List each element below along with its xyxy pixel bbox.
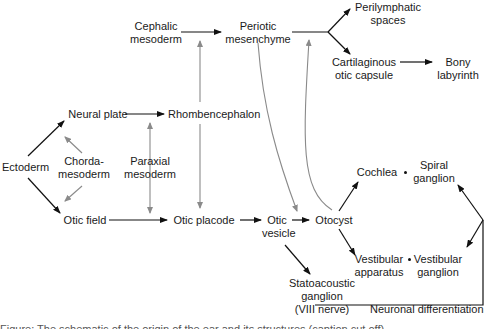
node-cartilaginous-otic-capsule: Cartilaginous otic capsule xyxy=(328,56,400,82)
arrow-chorda-to-field xyxy=(65,186,82,201)
figure-caption-cutoff: Figure: The schematic of the origin of t… xyxy=(0,322,488,329)
node-chordamesoderm: Chorda- mesoderm xyxy=(58,155,110,181)
arrow-ectoderm-to-otic-field xyxy=(28,178,60,213)
node-otocyst: Otocyst xyxy=(311,214,357,227)
node-bony-labyrinth: Bony labyrinth xyxy=(436,56,480,82)
node-neural-plate: Neural plate xyxy=(68,108,128,121)
bullet-dot xyxy=(408,258,411,261)
arrow-otocyst-to-vestibular xyxy=(339,229,355,255)
node-vestibular-apparatus: Vestibular apparatus xyxy=(352,253,406,279)
node-vestibular-ganglion: Vestibular ganglion xyxy=(412,253,464,279)
node-rhombencephalon: Rhombencephalon xyxy=(168,108,256,121)
node-ectoderm: Ectoderm xyxy=(2,161,46,174)
label-neuronal-differentiation: Neuronal differentiation xyxy=(370,303,482,316)
arrow-to-spiral-ganglion xyxy=(458,185,483,220)
arrow-periotic-to-vesicle xyxy=(258,43,297,211)
otic-development-diagram: Cephalic mesoderm Periotic mesenchyme Pe… xyxy=(0,0,488,329)
arrow-chorda-to-neural xyxy=(65,137,82,153)
arrow-vesicle-to-statoacoustic xyxy=(285,245,310,274)
arrow-to-cartilaginous xyxy=(328,32,350,54)
node-otic-field: Otic field xyxy=(62,214,108,227)
arrow-to-perilymphatic xyxy=(328,9,350,32)
arrow-otocyst-to-cochlea xyxy=(339,182,358,211)
node-statoacoustic-ganglion: Statoacoustic ganglion (VIII nerve) xyxy=(284,277,360,316)
node-otic-placode: Otic placode xyxy=(170,214,238,227)
arrow-ectoderm-to-neural xyxy=(28,121,64,156)
node-otic-vesicle: Otic vesicle xyxy=(262,214,292,240)
node-cephalic-mesoderm: Cephalic mesoderm xyxy=(128,20,184,46)
node-periotic-mesenchyme: Periotic mesenchyme xyxy=(225,20,291,46)
bullet-dot xyxy=(404,171,407,174)
node-spiral-ganglion: Spiral ganglion xyxy=(410,159,458,185)
node-perilymphatic-spaces: Perilymphatic spaces xyxy=(352,1,424,27)
arrow-to-vestibular-ganglion xyxy=(467,220,483,247)
node-cochlea: Cochlea xyxy=(354,166,400,179)
node-paraxial-mesoderm: Paraxial mesoderm xyxy=(124,155,176,181)
